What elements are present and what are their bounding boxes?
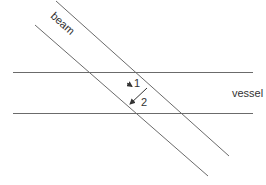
beam-lower-edge — [35, 25, 208, 176]
beam-label: beam — [49, 10, 77, 37]
vessel-label: vessel — [232, 87, 263, 99]
angle-2-label: 2 — [141, 96, 147, 108]
arrow-1-icon — [127, 83, 132, 87]
beam-vessel-diagram: beam 1 2 vessel — [0, 0, 266, 185]
beam-upper-edge — [56, 1, 229, 156]
angle-1-label: 1 — [134, 77, 140, 89]
